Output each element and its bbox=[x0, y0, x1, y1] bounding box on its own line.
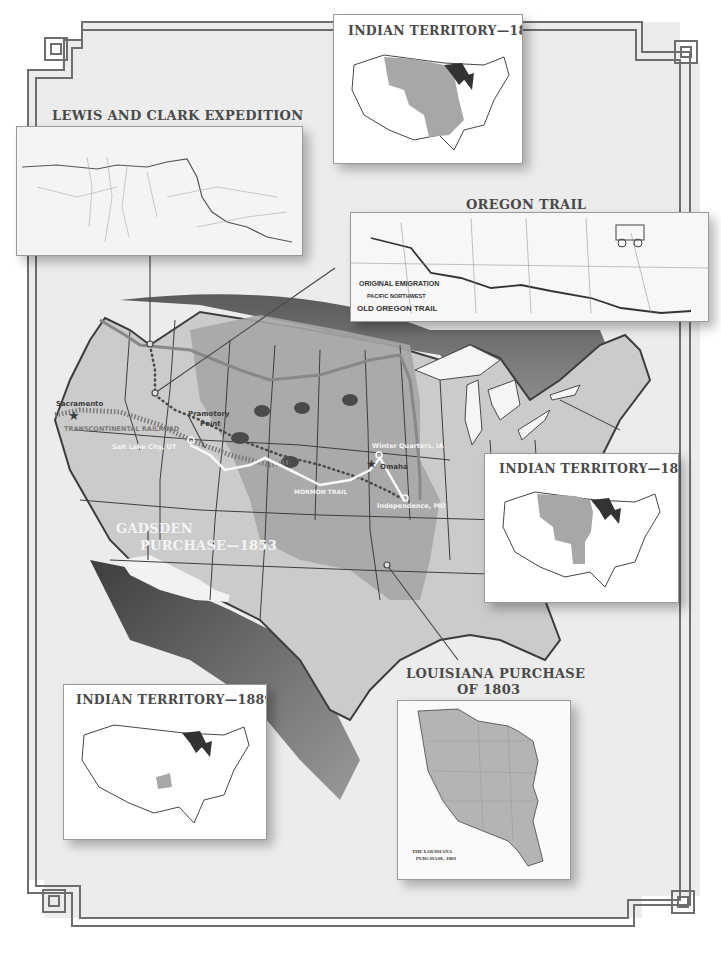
louisiana-caption-1: THE LOUISIANA bbox=[412, 849, 452, 854]
label-independence: Independence, MO bbox=[377, 502, 445, 510]
louisiana-title-1: LOUISIANA PURCHASE bbox=[406, 666, 585, 681]
inset-map-1810 bbox=[344, 45, 514, 160]
inset-oregon-trail: ORIGINAL EMIGRATION PACIFIC NORTHWEST OL… bbox=[350, 212, 709, 322]
map-page: ★ ★ Sacramento Pramotory Point TRANSCONT… bbox=[0, 0, 721, 957]
inset-map-1834 bbox=[495, 482, 670, 597]
inset-indian-territory-1810: INDIAN TERRITORY—1810 bbox=[333, 14, 523, 164]
star-icon-omaha: ★ bbox=[366, 457, 377, 471]
oregon-trail-title: OREGON TRAIL bbox=[466, 197, 586, 212]
inset-title: INDIAN TERRITORY—1810 bbox=[348, 23, 523, 38]
label-mormon-trail: MORMON TRAIL bbox=[294, 488, 347, 495]
inset-indian-territory-1889: INDIAN TERRITORY—1889 bbox=[63, 684, 267, 840]
inset-map-1889 bbox=[74, 715, 259, 833]
inset-title: INDIAN TERRITORY—1889 bbox=[76, 692, 267, 707]
star-icon-sacramento: ★ bbox=[68, 408, 80, 423]
label-salt-lake-city: Salt Lake City, UT bbox=[112, 443, 176, 451]
label-winter-quarters: Winter Quarters, IA bbox=[372, 442, 444, 450]
oregon-caption-2: PACIFIC NORTHWEST bbox=[367, 293, 426, 299]
label-promontory-point-2: Point bbox=[200, 420, 221, 428]
oregon-caption-1: ORIGINAL EMIGRATION bbox=[359, 280, 439, 287]
inset-indian-territory-1834: INDIAN TERRITORY—1834 bbox=[484, 453, 679, 603]
bison-icon bbox=[254, 405, 270, 417]
label-transcontinental-railroad: TRANSCONTINENTAL RAILROAD bbox=[64, 425, 179, 433]
bison-icon bbox=[342, 394, 358, 406]
inset-louisiana-purchase: THE LOUISIANA PURCHASE, 1803 bbox=[397, 700, 571, 880]
louisiana-caption-2: PURCHASE, 1803 bbox=[416, 856, 456, 861]
inset-lewis-clark bbox=[16, 126, 303, 256]
bison-icon bbox=[294, 402, 310, 414]
lewis-clark-title: LEWIS AND CLARK EXPEDITION bbox=[52, 108, 303, 123]
label-sacramento: Sacramento bbox=[56, 400, 103, 408]
label-gadsden-1: GADSDEN bbox=[116, 521, 193, 536]
oregon-caption-3: OLD OREGON TRAIL bbox=[357, 304, 437, 313]
louisiana-title-2: OF 1803 bbox=[457, 682, 520, 697]
lewis-clark-map bbox=[17, 127, 302, 255]
label-gadsden-2: PURCHASE—1853 bbox=[140, 538, 277, 553]
inset-title: INDIAN TERRITORY—1834 bbox=[499, 461, 679, 476]
label-omaha: Omaha bbox=[380, 463, 408, 471]
label-promontory-point-1: Pramotory bbox=[188, 410, 230, 418]
